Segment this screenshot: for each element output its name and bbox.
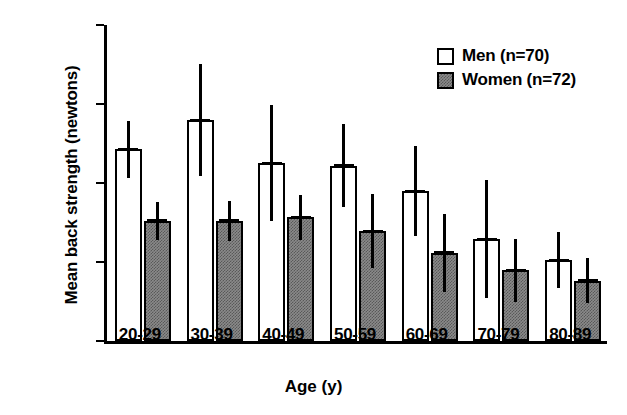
- error-bar-cap-women-40-49: [291, 216, 311, 219]
- x-axis-tick-label-80-89: 80-89: [515, 325, 625, 345]
- legend-label-women: Women (n=72): [462, 70, 576, 90]
- y-axis-tick: [96, 24, 104, 26]
- bar-chart-figure: Mean back strength (newtons) 20-2930-394…: [0, 0, 627, 415]
- error-bar-cap-women-70-79: [506, 269, 526, 272]
- error-bar-cap-men-80-89: [549, 259, 569, 262]
- error-bar-cap-men-20-29: [118, 148, 138, 151]
- y-axis-tick: [96, 103, 104, 105]
- chart-legend: Men (n=70)Women (n=72): [437, 44, 576, 92]
- error-bar-cap-women-50-59: [363, 230, 383, 233]
- y-axis-tick: [96, 182, 104, 184]
- error-bar-cap-men-70-79: [477, 238, 497, 241]
- error-bar-cap-women-20-29: [147, 219, 167, 222]
- y-axis-tick: [96, 261, 104, 263]
- legend-swatch-women: [437, 72, 454, 89]
- error-bar-cap-women-80-89: [578, 279, 598, 282]
- y-axis-title: Mean back strength (newtons): [62, 5, 82, 365]
- legend-item-men: Men (n=70): [437, 44, 576, 68]
- error-bar-cap-men-60-69: [405, 190, 425, 193]
- error-bar-cap-men-50-59: [334, 164, 354, 167]
- error-bar-cap-men-30-39: [190, 119, 210, 122]
- legend-swatch-men: [437, 48, 454, 65]
- legend-item-women: Women (n=72): [437, 68, 576, 92]
- error-bar-cap-women-30-39: [219, 219, 239, 222]
- y-axis-line: [104, 25, 107, 342]
- error-bar-cap-men-40-49: [262, 162, 282, 165]
- x-axis-title: Age (y): [0, 377, 627, 397]
- error-bar-cap-women-60-69: [434, 251, 454, 254]
- legend-label-men: Men (n=70): [462, 46, 549, 66]
